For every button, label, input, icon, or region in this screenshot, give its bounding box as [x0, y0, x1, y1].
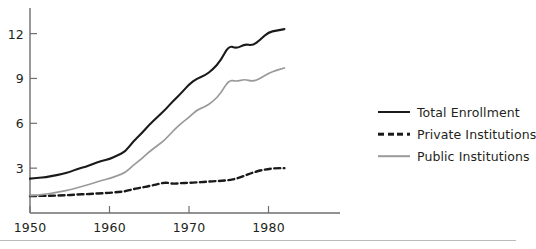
legend-label-total-enrollment: Total Enrollment	[417, 105, 520, 120]
legend-label-private-institutions: Private Institutions	[417, 127, 536, 142]
y-tick-label: 6	[0, 116, 24, 131]
legend-swatch-dashed-black-icon	[378, 129, 410, 139]
page-bottom-rule	[0, 240, 516, 241]
x-tick-label: 1970	[173, 220, 206, 235]
legend-label-public-institutions: Public Institutions	[417, 149, 530, 164]
legend-item-public-institutions: Public Institutions	[378, 145, 516, 167]
y-tick-label: 3	[0, 161, 24, 176]
legend-swatch-solid-black-icon	[378, 107, 410, 117]
x-axis-ticks	[30, 206, 269, 213]
legend-item-total-enrollment: Total Enrollment	[378, 101, 516, 123]
x-tick-label: 1980	[252, 220, 285, 235]
y-axis-ticks	[30, 34, 37, 169]
data-series-group	[30, 29, 284, 196]
y-tick-label: 9	[0, 71, 24, 86]
x-tick-label: 1960	[93, 220, 126, 235]
y-tick-label: 12	[0, 26, 24, 41]
x-tick-label: 1950	[14, 220, 47, 235]
legend-swatch-solid-gray-icon	[378, 151, 410, 161]
series-line-public-institutions	[30, 68, 284, 196]
series-line-total-enrollment	[30, 29, 284, 179]
legend-item-private-institutions: Private Institutions	[378, 123, 516, 145]
chart-legend: Total Enrollment Private Institutions Pu…	[378, 101, 516, 167]
